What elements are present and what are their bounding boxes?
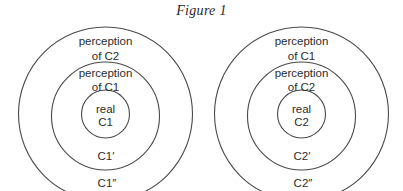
- right-middle-label-line1: perception: [275, 67, 329, 79]
- left-inner-label-line2: C1: [98, 116, 113, 128]
- left-outer-label-line2: of C2: [92, 50, 120, 62]
- right-outer-label-line2: of C1: [288, 50, 316, 62]
- left-inner-label-line1: real: [96, 103, 115, 115]
- left-circle-set: perception of C2 perception of C1 real C…: [19, 27, 193, 191]
- left-outer-label-line1: perception: [79, 35, 133, 47]
- left-middle-label-line2: of C1: [92, 81, 120, 93]
- right-middle-label-line2: of C2: [288, 81, 316, 93]
- right-circle-set: perception of C1 perception of C2 real C…: [215, 27, 389, 191]
- right-inner-label-line2: C2: [294, 116, 309, 128]
- left-middle-ring-label: C1′: [98, 150, 115, 162]
- left-outer-ring-label: C1″: [98, 177, 117, 189]
- right-outer-label-line1: perception: [275, 35, 329, 47]
- concentric-circles-diagram: perception of C2 perception of C1 real C…: [0, 0, 403, 191]
- left-middle-label-line1: perception: [79, 67, 133, 79]
- right-outer-ring-label: C2″: [294, 177, 313, 189]
- right-inner-label-line1: real: [292, 103, 311, 115]
- right-middle-ring-label: C2′: [294, 150, 311, 162]
